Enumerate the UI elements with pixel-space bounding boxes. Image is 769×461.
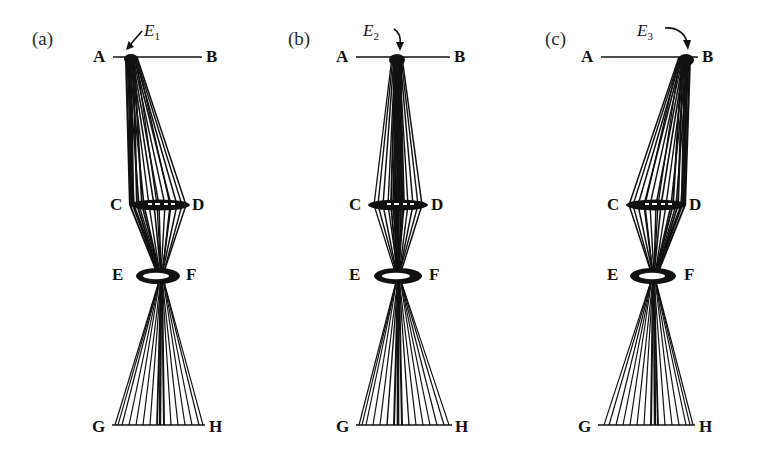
point-label-E: E — [607, 266, 618, 283]
point-label-A: A — [581, 48, 593, 65]
ray-bundle-middle — [629, 205, 685, 275]
lens-EF — [374, 268, 422, 284]
ray-bundle-lower — [604, 278, 693, 425]
entry-label-E3: E3 — [637, 22, 653, 42]
ray-tracing-figure: (a) — [0, 0, 769, 461]
point-label-A: A — [336, 48, 348, 65]
panel-b: (b) — [256, 0, 512, 461]
point-label-B: B — [206, 48, 217, 65]
entry-aperture-blob — [678, 54, 694, 66]
point-label-F: F — [429, 266, 439, 283]
entry-aperture-blob — [124, 54, 138, 64]
point-label-A: A — [93, 48, 105, 65]
point-label-F: F — [186, 266, 196, 283]
point-label-B: B — [702, 48, 713, 65]
point-label-D: D — [192, 196, 204, 213]
panel-c-diagram — [513, 0, 769, 461]
ray-bundle-middle — [130, 205, 186, 275]
point-label-H: H — [699, 418, 712, 435]
lens-CD — [626, 200, 686, 211]
point-label-C: C — [110, 196, 122, 213]
point-label-D: D — [689, 196, 701, 213]
panel-b-diagram — [256, 0, 512, 461]
point-label-G: G — [336, 418, 349, 435]
entry-label-E2: E2 — [363, 22, 379, 42]
ray-bundle-upper — [374, 57, 422, 205]
point-label-E: E — [112, 266, 123, 283]
point-label-B: B — [454, 48, 465, 65]
point-label-C: C — [607, 196, 619, 213]
entry-label-E1: E1 — [144, 22, 160, 42]
panel-a-diagram — [0, 0, 256, 461]
lens-EF — [136, 268, 180, 284]
entry-aperture-blob — [389, 54, 405, 66]
ray-bundle-upper — [629, 57, 690, 205]
panel-a: (a) — [0, 0, 256, 461]
ray-bundle-lower — [115, 278, 203, 425]
point-label-D: D — [431, 196, 443, 213]
ray-bundle-middle — [374, 205, 422, 275]
point-label-C: C — [349, 196, 361, 213]
point-label-E: E — [349, 266, 360, 283]
panel-c: (c) — [513, 0, 769, 461]
point-label-G: G — [578, 418, 591, 435]
ray-bundle-upper — [126, 57, 186, 205]
lens-EF — [630, 268, 676, 284]
lens-CD — [368, 200, 428, 211]
ray-bundle-lower — [359, 278, 449, 425]
point-label-F: F — [684, 266, 694, 283]
point-label-G: G — [92, 418, 105, 435]
point-label-H: H — [455, 418, 468, 435]
lens-CD — [130, 200, 190, 211]
point-label-H: H — [209, 418, 222, 435]
